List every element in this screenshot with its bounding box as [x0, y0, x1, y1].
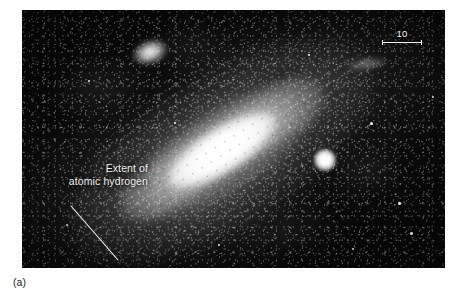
field-star	[432, 96, 434, 98]
field-star	[410, 232, 413, 235]
field-star	[398, 202, 401, 205]
field-star	[218, 244, 220, 246]
field-star	[66, 224, 68, 226]
figure-caption: (a)	[13, 276, 26, 289]
field-star	[308, 54, 310, 56]
field-star	[88, 80, 90, 82]
figure-panel-a: Extent of atomic hydrogen 10 (a)	[0, 0, 466, 298]
field-star	[370, 122, 373, 125]
companion-galaxy-right	[314, 149, 336, 171]
galaxy-photograph: Extent of atomic hydrogen 10	[22, 10, 445, 268]
field-star	[174, 122, 176, 124]
field-star	[352, 248, 354, 250]
